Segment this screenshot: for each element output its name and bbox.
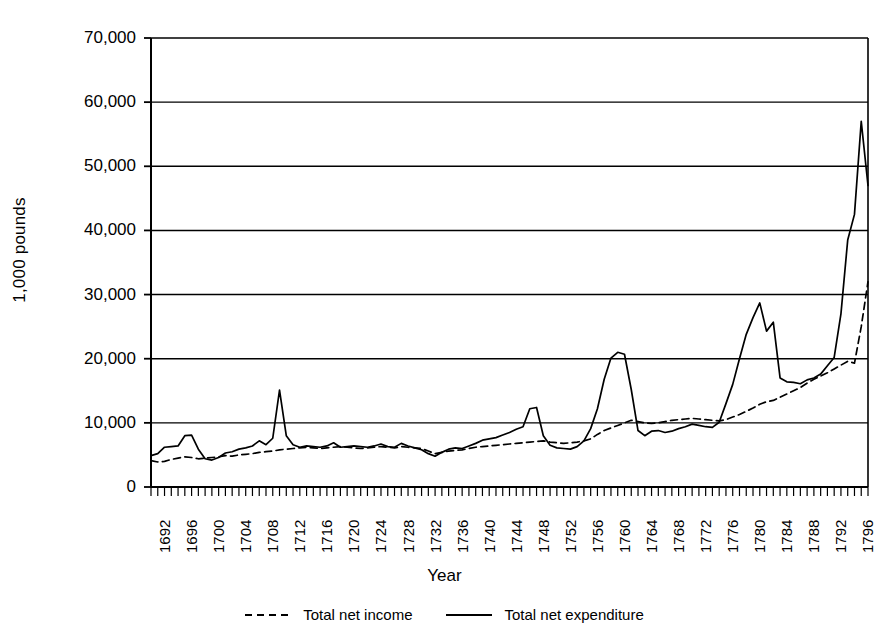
y-axis-ticks: [144, 38, 151, 487]
x-tick-label: 1796: [860, 520, 875, 553]
x-tick-label: 1712: [292, 520, 307, 553]
x-tick-label: 1752: [563, 520, 578, 553]
x-tick-label: 1776: [725, 520, 740, 553]
chart-container: 1,000 pounds 010,00020,00030,00040,00050…: [0, 0, 889, 640]
legend-label-income: Total net income: [303, 606, 412, 623]
y-tick-label: 70,000: [40, 29, 136, 46]
y-tick-label: 60,000: [40, 93, 136, 110]
x-tick-label: 1740: [482, 520, 497, 553]
y-tick-label: 20,000: [40, 350, 136, 367]
series-layer: [151, 121, 868, 462]
x-tick-label: 1744: [509, 520, 524, 553]
y-tick-label: 30,000: [40, 286, 136, 303]
x-tick-label: 1692: [157, 520, 172, 553]
x-tick-label: 1756: [590, 520, 605, 553]
x-tick-label: 1724: [373, 520, 388, 553]
x-axis-ticks: [151, 487, 868, 496]
x-tick-label: 1700: [211, 520, 226, 553]
x-tick-label: 1792: [833, 520, 848, 553]
legend-dashed-line-icon: [245, 610, 291, 620]
x-tick-label: 1708: [265, 520, 280, 553]
legend-item-income[interactable]: Total net income: [245, 606, 412, 623]
x-tick-label: 1704: [238, 520, 253, 553]
x-tick-label: 1732: [428, 520, 443, 553]
y-tick-label: 10,000: [40, 414, 136, 431]
x-tick-label: 1728: [401, 520, 416, 553]
y-tick-label: 40,000: [40, 221, 136, 238]
y-tick-label: 50,000: [40, 157, 136, 174]
chart-legend: Total net income Total net expenditure: [0, 606, 889, 623]
x-tick-label: 1788: [806, 520, 821, 553]
x-tick-label: 1748: [536, 520, 551, 553]
legend-solid-line-icon: [446, 610, 492, 620]
x-tick-label: 1784: [779, 520, 794, 553]
series-line-expenditure: [151, 121, 868, 460]
gridlines: [151, 38, 868, 423]
x-tick-label: 1720: [346, 520, 361, 553]
x-axis-title: Year: [0, 566, 889, 586]
x-tick-label: 1696: [184, 520, 199, 553]
y-tick-label: 0: [40, 478, 136, 495]
x-tick-label: 1764: [644, 520, 659, 553]
x-tick-label: 1716: [319, 520, 334, 553]
x-tick-label: 1768: [671, 520, 686, 553]
x-tick-label: 1736: [455, 520, 470, 553]
x-tick-label: 1780: [752, 520, 767, 553]
x-tick-label: 1760: [617, 520, 632, 553]
x-tick-label: 1772: [698, 520, 713, 553]
legend-item-expenditure[interactable]: Total net expenditure: [446, 606, 643, 623]
legend-label-expenditure: Total net expenditure: [504, 606, 643, 623]
